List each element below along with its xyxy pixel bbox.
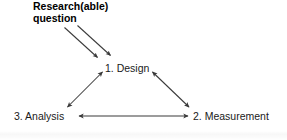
node-measurement: 2. Measurement	[193, 110, 269, 122]
node-analysis: 3. Analysis	[14, 110, 64, 122]
node-design: 1. Design	[105, 62, 149, 74]
research-process-diagram: Research(able) question 1. Design 2. Mea…	[0, 0, 287, 140]
edge-question-to-design-upper	[65, 28, 98, 58]
edge-question-to-design-lower	[78, 26, 111, 56]
edge-design-analysis	[68, 72, 103, 107]
edge-design-measurement	[153, 72, 190, 107]
